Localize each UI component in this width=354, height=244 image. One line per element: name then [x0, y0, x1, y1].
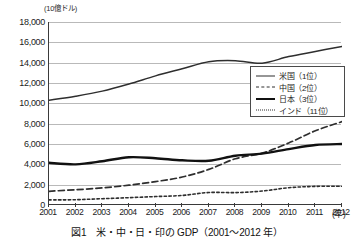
legend: 米国（1位）中国（2位）日本（3位）インド（11位）: [250, 66, 345, 117]
x-axis-tick-label: 2001: [39, 207, 57, 217]
series-line-3: [49, 144, 342, 164]
legend-item-label: 中国（2位）: [279, 82, 322, 93]
x-axis-tick-label: 2002: [66, 207, 84, 217]
legend-line-swatch-icon: [256, 95, 275, 103]
y-axis-tick-label: 16,000: [0, 37, 45, 47]
y-axis-tick-label: 4,000: [0, 159, 45, 169]
y-axis-tick-labels: 02,0004,0006,0008,00010,00012,00014,0001…: [0, 22, 48, 205]
legend-item-label: 米国（1位）: [279, 70, 322, 81]
x-axis-tick-label: 2009: [252, 207, 270, 217]
y-axis-tick-label: 2,000: [0, 180, 45, 190]
legend-item: 日本（3位）: [256, 93, 344, 105]
x-axis-tick-label: 2011: [306, 207, 323, 217]
series-line-2: [49, 122, 342, 192]
y-axis-tick-label: 12,000: [0, 78, 45, 88]
figure-caption: 図1 米・中・日・印の GDP（2001〜2012 年）: [0, 224, 354, 239]
legend-line-swatch-icon: [256, 106, 275, 114]
y-axis-unit-label: (10億ドル): [44, 2, 77, 13]
x-axis-tick-label: 2007: [199, 207, 217, 217]
legend-item-label: インド（11位）: [279, 105, 333, 116]
legend-line-swatch-icon: [256, 72, 275, 80]
y-axis-tick-label: 6,000: [0, 139, 45, 149]
y-axis-tick-label: 14,000: [0, 58, 45, 68]
x-axis-tick-label: 2004: [119, 207, 137, 217]
legend-item: 中国（2位）: [256, 82, 344, 94]
legend-item: インド（11位）: [256, 105, 344, 117]
legend-item: 米国（1位）: [256, 70, 344, 82]
x-axis-tick-label: 2006: [172, 207, 190, 217]
x-axis-tick-label: 2008: [226, 207, 244, 217]
x-axis-tick-label: 2010: [279, 207, 297, 217]
y-axis-tick-label: 18,000: [0, 17, 45, 27]
legend-line-swatch-icon: [256, 83, 275, 91]
x-axis-unit-label: (年): [332, 207, 346, 219]
y-axis-tick-label: 10,000: [0, 98, 45, 108]
legend-item-label: 日本（3位）: [279, 93, 322, 104]
gdp-line-chart-figure: (10億ドル) 02,0004,0006,0008,00010,00012,00…: [0, 0, 354, 244]
x-axis-tick-labels: 2001200220032004200520062007200820092010…: [48, 207, 341, 221]
y-axis-tick-label: 8,000: [0, 119, 45, 129]
x-axis-tick-label: 2005: [146, 207, 164, 217]
x-axis-tick-label: 2003: [93, 207, 111, 217]
